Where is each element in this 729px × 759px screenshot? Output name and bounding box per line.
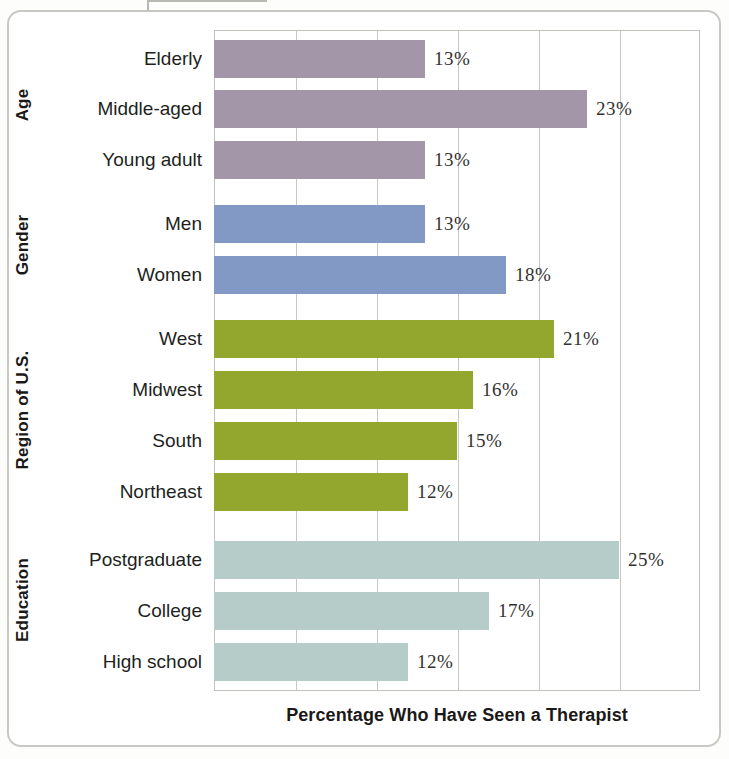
category-label-northeast-text: Northeast <box>120 481 202 503</box>
category-label-young-adult-text: Young adult <box>102 149 202 171</box>
category-label-northeast: Northeast <box>0 473 214 511</box>
table-row: 13% <box>214 40 700 78</box>
category-label-college: College <box>0 592 214 630</box>
bar-young-adult: 13% <box>214 141 425 179</box>
category-label-postgraduate-text: Postgraduate <box>89 549 202 571</box>
table-row: 13% <box>214 205 700 243</box>
table-row: 16% <box>214 371 700 409</box>
table-row: 13% <box>214 141 700 179</box>
category-label-south: South <box>0 422 214 460</box>
bar-south: 15% <box>214 422 457 460</box>
bar-value-postgraduate: 25% <box>628 549 664 571</box>
table-row: 12% <box>214 643 700 681</box>
category-label-elderly: Elderly <box>0 40 214 78</box>
category-label-high-school-text: High school <box>103 651 202 673</box>
category-label-women: Women <box>0 256 214 294</box>
category-label-middle-aged-text: Middle-aged <box>97 98 202 120</box>
x-axis-title: Percentage Who Have Seen a Therapist <box>214 705 700 726</box>
bar-midwest: 16% <box>214 371 473 409</box>
category-label-young-adult: Young adult <box>0 141 214 179</box>
category-label-middle-aged: Middle-aged <box>0 90 214 128</box>
bar-northeast: 12% <box>214 473 408 511</box>
category-label-elderly-text: Elderly <box>144 48 202 70</box>
category-label-west: West <box>0 320 214 358</box>
bar-elderly: 13% <box>214 40 425 78</box>
table-row: 18% <box>214 256 700 294</box>
bar-value-young-adult: 13% <box>434 149 470 171</box>
bar-postgraduate: 25% <box>214 541 619 579</box>
bar-value-women: 18% <box>515 264 551 286</box>
category-label-college-text: College <box>138 600 202 622</box>
bar-value-northeast: 12% <box>417 481 453 503</box>
bar-value-midwest: 16% <box>482 379 518 401</box>
category-label-women-text: Women <box>137 264 202 286</box>
category-label-high-school: High school <box>0 643 214 681</box>
table-row: 21% <box>214 320 700 358</box>
bar-value-college: 17% <box>498 600 534 622</box>
category-label-midwest-text: Midwest <box>132 379 202 401</box>
table-row: 15% <box>214 422 700 460</box>
bar-value-south: 15% <box>466 430 502 452</box>
bar-value-elderly: 13% <box>434 48 470 70</box>
category-label-south-text: South <box>152 430 202 452</box>
table-row: 25% <box>214 541 700 579</box>
table-row: 12% <box>214 473 700 511</box>
table-row: 17% <box>214 592 700 630</box>
bar-value-high-school: 12% <box>417 651 453 673</box>
bar-chart: Age Gender Region of U.S. Education Elde… <box>0 0 729 759</box>
bar-middle-aged: 23% <box>214 90 587 128</box>
table-row: 23% <box>214 90 700 128</box>
category-label-men: Men <box>0 205 214 243</box>
bar-men: 13% <box>214 205 425 243</box>
category-label-midwest: Midwest <box>0 371 214 409</box>
category-label-men-text: Men <box>165 213 202 235</box>
category-label-west-text: West <box>159 328 202 350</box>
bar-college: 17% <box>214 592 489 630</box>
bar-women: 18% <box>214 256 506 294</box>
bar-value-middle-aged: 23% <box>596 98 632 120</box>
bar-value-west: 21% <box>563 328 599 350</box>
category-label-postgraduate: Postgraduate <box>0 541 214 579</box>
bar-value-men: 13% <box>434 213 470 235</box>
bar-west: 21% <box>214 320 554 358</box>
bar-high-school: 12% <box>214 643 408 681</box>
